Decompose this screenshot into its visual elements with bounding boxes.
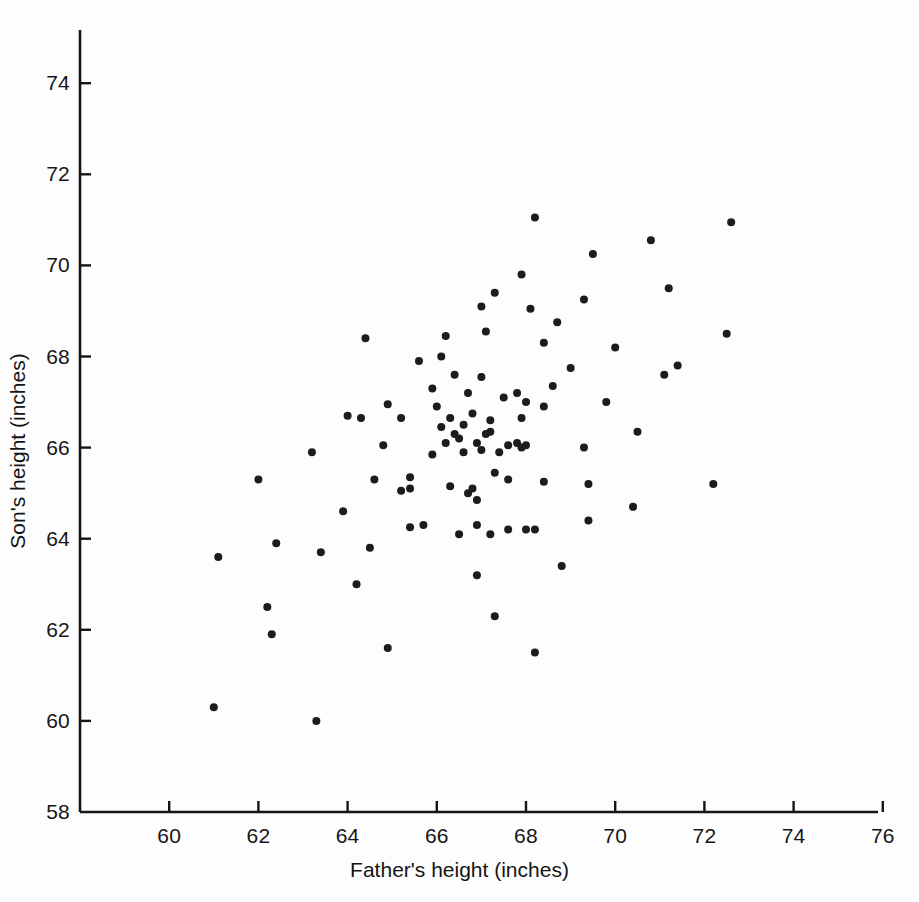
y-axis-title: Son's height (inches)	[6, 353, 30, 548]
data-point	[477, 446, 485, 454]
axis-lines	[80, 30, 878, 812]
data-point	[366, 544, 374, 552]
data-point	[384, 400, 392, 408]
data-point	[468, 409, 476, 417]
data-point	[477, 302, 485, 310]
data-point	[526, 305, 534, 313]
x-tick-label: 72	[693, 824, 717, 848]
data-point	[723, 330, 731, 338]
data-point	[482, 327, 490, 335]
data-point	[674, 362, 682, 370]
data-point	[518, 444, 526, 452]
data-point	[442, 439, 450, 447]
data-point	[647, 236, 655, 244]
data-point	[460, 421, 468, 429]
data-point	[370, 475, 378, 483]
data-point	[384, 644, 392, 652]
data-point	[317, 548, 325, 556]
y-axis-ticks	[80, 83, 91, 721]
data-point	[486, 530, 494, 538]
x-tick-label: 62	[247, 824, 271, 848]
x-tick-label: 64	[336, 824, 360, 848]
data-point	[397, 414, 405, 422]
data-point	[406, 485, 414, 493]
x-tick-label: 68	[514, 824, 538, 848]
data-point	[353, 580, 361, 588]
data-point	[540, 403, 548, 411]
data-point	[455, 530, 463, 538]
data-point	[268, 630, 276, 638]
data-point	[397, 487, 405, 495]
data-point	[584, 516, 592, 524]
data-point	[437, 353, 445, 361]
data-point	[518, 271, 526, 279]
data-point	[442, 332, 450, 340]
scatter-plot-figure: 586062646668707274 606264666870727476 So…	[0, 0, 919, 902]
data-point	[584, 480, 592, 488]
data-point	[406, 473, 414, 481]
data-point	[308, 448, 316, 456]
data-point	[531, 214, 539, 222]
data-point	[491, 612, 499, 620]
data-point	[455, 434, 463, 442]
data-point	[357, 414, 365, 422]
data-point	[464, 489, 472, 497]
x-tick-label: 66	[425, 824, 449, 848]
data-point	[446, 482, 454, 490]
data-point	[504, 475, 512, 483]
data-point	[446, 414, 454, 422]
data-point	[660, 371, 668, 379]
data-point	[451, 371, 459, 379]
data-point	[513, 389, 521, 397]
data-point	[473, 496, 481, 504]
data-point	[473, 439, 481, 447]
data-point	[415, 357, 423, 365]
data-point	[406, 523, 414, 531]
data-point	[589, 250, 597, 258]
data-point	[629, 503, 637, 511]
data-point	[214, 553, 222, 561]
data-point	[580, 296, 588, 304]
data-point	[486, 416, 494, 424]
x-tick-label: 74	[782, 824, 806, 848]
data-point	[477, 373, 485, 381]
data-point	[437, 423, 445, 431]
data-point-layer	[210, 214, 735, 725]
data-point	[210, 703, 218, 711]
data-point	[473, 521, 481, 529]
data-point	[709, 480, 717, 488]
data-point	[580, 444, 588, 452]
data-point	[727, 218, 735, 226]
data-point	[263, 603, 271, 611]
data-point	[486, 428, 494, 436]
data-point	[491, 469, 499, 477]
data-point	[419, 521, 427, 529]
data-point	[567, 364, 575, 372]
data-point	[522, 526, 530, 534]
data-point	[540, 339, 548, 347]
x-tick-label: 70	[603, 824, 627, 848]
data-point	[500, 394, 508, 402]
data-point	[540, 478, 548, 486]
data-point	[428, 384, 436, 392]
data-point	[531, 526, 539, 534]
data-point	[379, 441, 387, 449]
data-point	[602, 398, 610, 406]
data-point	[428, 450, 436, 458]
data-point	[344, 412, 352, 420]
data-point	[634, 428, 642, 436]
data-point	[504, 441, 512, 449]
data-point	[272, 539, 280, 547]
x-tick-label: 60	[157, 824, 181, 848]
data-point	[549, 382, 557, 390]
data-point	[495, 448, 503, 456]
data-point	[504, 526, 512, 534]
data-point	[665, 284, 673, 292]
data-point	[473, 571, 481, 579]
plot-canvas	[0, 0, 919, 902]
data-point	[312, 717, 320, 725]
data-point	[339, 507, 347, 515]
data-point	[464, 389, 472, 397]
data-point	[518, 414, 526, 422]
y-axis-title-wrap: Son's height (inches)	[0, 0, 36, 902]
